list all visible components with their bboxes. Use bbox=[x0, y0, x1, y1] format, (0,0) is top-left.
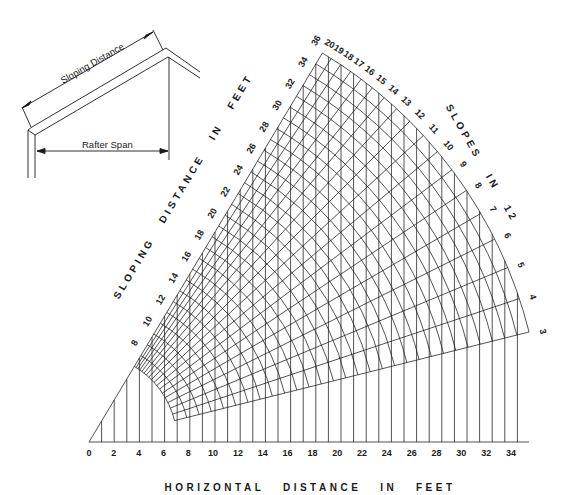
sloping-tick-label: 22 bbox=[218, 185, 232, 199]
distance-arc bbox=[277, 129, 443, 354]
slope-tick-label: 5 bbox=[515, 261, 526, 269]
x-tick-label: 6 bbox=[161, 448, 166, 458]
x-tick-label: 10 bbox=[208, 448, 218, 458]
sloping-tick-label: 36 bbox=[309, 34, 323, 48]
x-tick-label: 16 bbox=[283, 448, 293, 458]
sloping-tick-label: 24 bbox=[231, 163, 245, 177]
slope-line bbox=[165, 213, 481, 397]
slope-line bbox=[144, 88, 372, 373]
x-tick-label: 30 bbox=[456, 448, 466, 458]
x-axis-title: HORIZONTAL DISTANCE IN FEET bbox=[164, 482, 455, 493]
x-tick-label: 4 bbox=[136, 448, 141, 458]
distance-arc bbox=[271, 139, 432, 356]
x-tick-label: 22 bbox=[357, 448, 367, 458]
slope-line bbox=[170, 268, 507, 409]
distance-arc bbox=[212, 237, 321, 384]
sloping-tick-label: 32 bbox=[283, 77, 297, 91]
sloping-tick-label: 14 bbox=[166, 271, 180, 285]
x-tick-label: 32 bbox=[481, 448, 491, 458]
slope-tick-label: 4 bbox=[527, 293, 538, 301]
distance-arc bbox=[134, 366, 174, 420]
sloping-tick-label: 18 bbox=[192, 228, 206, 242]
sloping-tick-label: 26 bbox=[244, 142, 258, 156]
distance-arc bbox=[147, 345, 199, 415]
slope-tick-label: 17 bbox=[352, 56, 366, 70]
x-tick-label: 24 bbox=[382, 448, 392, 458]
slopes-axis-title: SLOPES IN 12 bbox=[444, 102, 521, 224]
nomogram-grid bbox=[89, 53, 529, 442]
x-tick-label: 18 bbox=[307, 448, 317, 458]
sloping-tick-label: 16 bbox=[179, 250, 193, 264]
x-tick-label: 14 bbox=[258, 448, 268, 458]
slope-tick-label: 7 bbox=[488, 205, 499, 214]
distance-arc bbox=[141, 356, 187, 418]
sloping-distance-inset-label: Sloping Distance bbox=[59, 41, 126, 86]
x-tick-label: 12 bbox=[233, 448, 243, 458]
x-tick-label: 28 bbox=[432, 448, 442, 458]
distance-arc bbox=[296, 96, 480, 344]
sloping-tick-label: 34 bbox=[296, 55, 310, 69]
sloping-axis-title: SLOPING DISTANCE IN FEET bbox=[111, 72, 255, 301]
slope-tick-label: 16 bbox=[363, 64, 377, 78]
x-tick-label: 2 bbox=[111, 448, 116, 458]
x-tick-label: 8 bbox=[186, 448, 191, 458]
x-tick-label: 26 bbox=[407, 448, 417, 458]
sloping-tick-label: 30 bbox=[270, 98, 284, 112]
sloping-tick-label: 8 bbox=[129, 338, 140, 347]
slope-tick-label: 9 bbox=[458, 159, 469, 169]
sloping-tick-label: 28 bbox=[257, 120, 271, 134]
distance-arc bbox=[180, 291, 260, 399]
x-tick-label: 20 bbox=[332, 448, 342, 458]
sloping-tick-label: 20 bbox=[205, 206, 219, 220]
slope-tick-label: 14 bbox=[386, 83, 400, 97]
slope-tick-label: 15 bbox=[374, 73, 388, 87]
rafter-length-nomogram: Sloping Distance Rafter Span 02468101214… bbox=[0, 0, 564, 495]
distance-arc bbox=[225, 215, 346, 378]
slope-tick-label: 6 bbox=[502, 231, 513, 240]
slope-tick-label: 12 bbox=[413, 107, 427, 121]
slope-tick-label: 11 bbox=[427, 122, 441, 136]
nomogram-labels: 0246810121416182022242628303234810121416… bbox=[86, 34, 548, 458]
rafter-span-inset-label: Rafter Span bbox=[82, 139, 133, 150]
sloping-tick-label: 12 bbox=[154, 293, 168, 307]
slope-20-edge bbox=[89, 366, 134, 442]
distance-arc bbox=[238, 193, 370, 371]
distance-arc bbox=[309, 75, 504, 338]
slope-tick-label: 8 bbox=[473, 181, 484, 191]
distance-arc bbox=[199, 258, 297, 390]
sloping-tick-label: 10 bbox=[141, 314, 155, 328]
x-tick-label: 0 bbox=[86, 448, 91, 458]
slope-tick-label: 10 bbox=[441, 138, 455, 152]
slope-line bbox=[162, 190, 466, 393]
slope-tick-label: 3 bbox=[538, 328, 549, 335]
slope-tick-label: 13 bbox=[399, 94, 413, 108]
distance-arc bbox=[251, 172, 395, 366]
x-tick-label: 34 bbox=[506, 448, 516, 458]
